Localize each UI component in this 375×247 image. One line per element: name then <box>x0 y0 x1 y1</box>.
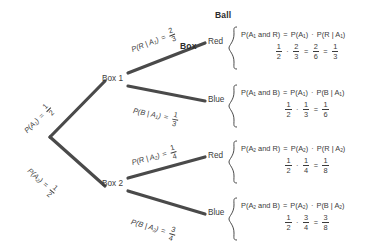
leaf-red-box1: Red <box>208 38 223 46</box>
node-box2: Box 2 <box>102 180 123 188</box>
probability-tree-diagram: Box Ball Box 1 Box 2 Red Blue Red Blue P… <box>0 0 375 247</box>
brace-outcome-a1r <box>228 26 238 70</box>
outcome-formula-a1r: P(A1 and R) = P(A1) · P(R | A1) <box>241 31 373 38</box>
column-header-ball: Ball <box>215 11 231 20</box>
edge-box1-blue <box>128 86 205 101</box>
edge-root-box1 <box>50 81 105 137</box>
leaf-blue-box1: Blue <box>208 96 224 104</box>
brace-outcome-a2b <box>228 197 238 241</box>
leaf-red-box2: Red <box>208 152 223 160</box>
outcome-block-a1r: P(A1 and R) = P(A1) · P(R | A1) 12 · 23 … <box>241 31 373 60</box>
leaf-blue-box2: Blue <box>208 209 224 217</box>
outcome-computation-a2b: 12 · 34 = 38 <box>241 214 373 231</box>
outcome-block-a2r: P(A2 and R) = P(A2) · P(R | A2) 12 · 14 … <box>241 145 373 174</box>
brace-outcome-a2r <box>228 140 238 184</box>
brace-outcome-a1b <box>228 84 238 128</box>
node-box1: Box 1 <box>102 75 123 83</box>
column-header-box: Box <box>180 42 197 51</box>
edge-box2-blue <box>128 191 205 214</box>
outcome-block-a1b: P(A1 and B) = P(A1) · P(B | A1) 12 · 13 … <box>241 89 373 118</box>
outcome-formula-a1b: P(A1 and B) = P(A1) · P(B | A1) <box>241 89 373 96</box>
outcome-block-a2b: P(A2 and B) = P(A2) · P(B | A2) 12 · 34 … <box>241 202 373 231</box>
outcome-computation-a1b: 12 · 13 = 16 <box>241 101 373 118</box>
outcome-computation-a2r: 12 · 14 = 18 <box>241 157 373 174</box>
outcome-computation-a1r: 12 · 23 = 26 = 13 <box>241 43 373 60</box>
edge-root-box2 <box>50 137 105 186</box>
outcome-formula-a2r: P(A2 and R) = P(A2) · P(R | A2) <box>241 145 373 152</box>
outcome-formula-a2b: P(A2 and B) = P(A2) · P(B | A2) <box>241 202 373 209</box>
